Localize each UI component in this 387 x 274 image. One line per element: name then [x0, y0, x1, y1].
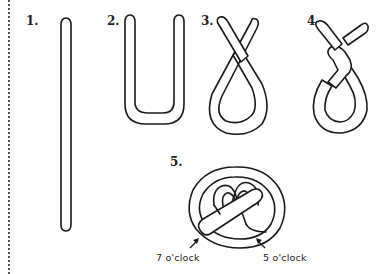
- step-3-crossed-loop: [209, 17, 267, 134]
- annotation-5-oclock: 5 o'clock: [263, 252, 307, 263]
- step-4-twisted-loop: [313, 21, 368, 133]
- step-1-rope: [61, 18, 71, 231]
- annotation-7-oclock: 7 o'clock: [156, 252, 200, 263]
- arrow-7-oclock: [190, 238, 199, 248]
- step-2-u-shape: [125, 15, 184, 124]
- pretzel-steps-illustration: [0, 0, 387, 274]
- step-5-pretzel: [189, 167, 285, 248]
